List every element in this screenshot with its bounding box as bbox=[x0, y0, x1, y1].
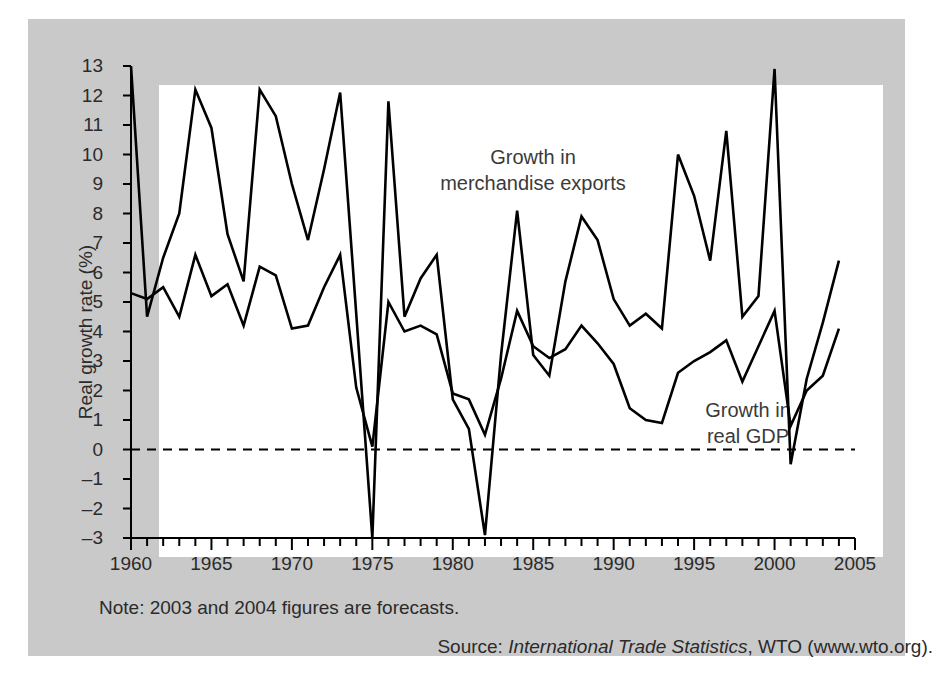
series-line bbox=[131, 66, 839, 538]
series-line bbox=[131, 255, 839, 447]
chart-svg bbox=[0, 0, 932, 674]
figure-root: Real growth rate (%) Growth in merchandi… bbox=[0, 0, 932, 674]
data-series-group bbox=[131, 66, 839, 538]
